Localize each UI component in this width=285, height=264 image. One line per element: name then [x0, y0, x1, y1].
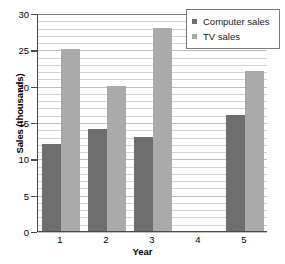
y-axis-tick-label: 20 [18, 81, 29, 92]
x-axis-tick-label: 3 [149, 234, 154, 245]
bar-tv-sales-year-1 [61, 49, 80, 231]
y-axis-tick-label: 30 [18, 9, 29, 20]
gridline [38, 232, 267, 233]
y-axis-tick [31, 50, 37, 51]
y-axis-tick-label: 5 [24, 190, 29, 201]
x-axis-title: Year [0, 246, 285, 257]
bar-tv-sales-year-2 [107, 86, 126, 231]
legend-label-computer-sales: Computer sales [203, 16, 270, 27]
x-axis-tick-label: 1 [57, 234, 62, 245]
bar-tv-sales-year-5 [245, 71, 264, 231]
x-axis-tick-label: 4 [195, 234, 200, 245]
y-axis-tick [31, 14, 37, 15]
legend-item-tv-sales[interactable]: TV sales [192, 29, 274, 44]
y-axis-tick [31, 232, 37, 233]
y-axis-title: Sales (thousands) [14, 39, 25, 189]
bar-tv-sales-year-3 [153, 28, 172, 231]
bar-computer-sales-year-1 [42, 144, 61, 231]
x-axis-tick-label: 5 [241, 234, 246, 245]
x-axis-tick-label: 2 [103, 234, 108, 245]
legend-label-tv-sales: TV sales [203, 31, 240, 42]
y-axis-tick [31, 123, 37, 124]
y-axis-tick-label: 25 [18, 45, 29, 56]
legend-item-computer-sales[interactable]: Computer sales [192, 14, 274, 29]
bar-chart: Sales (thousands) 051015202530 12345 Yea… [0, 0, 285, 264]
bar-computer-sales-year-2 [88, 129, 107, 231]
bar-computer-sales-year-3 [134, 137, 153, 231]
y-axis-tick [31, 159, 37, 160]
y-axis-tick-label: 10 [18, 154, 29, 165]
legend-swatch-computer-sales [192, 19, 197, 24]
y-axis-tick-label: 0 [24, 227, 29, 238]
bar-computer-sales-year-5 [226, 115, 245, 231]
y-axis-tick-label: 15 [18, 118, 29, 129]
legend: Computer sales TV sales [186, 9, 280, 49]
y-axis-tick [31, 87, 37, 88]
legend-swatch-tv-sales [192, 34, 197, 39]
y-axis-tick [31, 196, 37, 197]
